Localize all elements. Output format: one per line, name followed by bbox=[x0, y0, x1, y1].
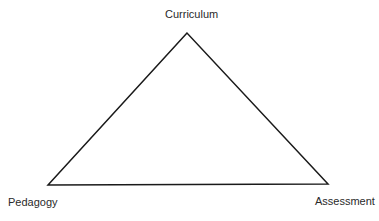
vertex-label-assessment: Assessment bbox=[315, 195, 375, 207]
vertex-label-pedagogy: Pedagogy bbox=[8, 196, 58, 208]
vertex-label-curriculum: Curriculum bbox=[165, 8, 218, 20]
triangle-svg bbox=[0, 0, 379, 221]
triangle-shape bbox=[48, 33, 328, 185]
triangle-diagram: Curriculum Pedagogy Assessment bbox=[0, 0, 379, 221]
